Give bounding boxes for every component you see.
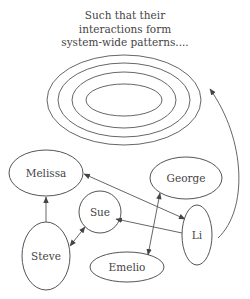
edge-li-pattern: [210, 89, 239, 238]
node-melissa: Melissa: [9, 150, 83, 196]
edge-george-emelio: [148, 193, 160, 255]
node-george: George: [150, 157, 222, 199]
diagram-canvas: Such that their interactions form system…: [0, 0, 250, 299]
node-label: Emelio: [109, 261, 146, 273]
node-label: Steve: [31, 250, 61, 262]
pattern-ring-3: [72, 72, 176, 128]
node-label: George: [167, 172, 206, 184]
node-li: Li: [182, 205, 212, 265]
node-label: Li: [192, 229, 203, 241]
node-label: Melissa: [26, 167, 67, 179]
edge-li-sue: [116, 219, 182, 233]
diagram-svg: Melissa George Sue Li Steve Emelio: [0, 0, 250, 299]
node-steve: Steve: [22, 222, 70, 290]
pattern-ring-1: [47, 55, 201, 145]
node-label: Sue: [90, 206, 110, 218]
pattern-ring-4: [86, 84, 162, 116]
edge-steve-sue: [70, 227, 85, 246]
node-emelio: Emelio: [90, 252, 164, 282]
node-sue: Sue: [79, 191, 121, 233]
emergent-pattern: [47, 55, 201, 145]
pattern-ring-2: [58, 63, 190, 137]
